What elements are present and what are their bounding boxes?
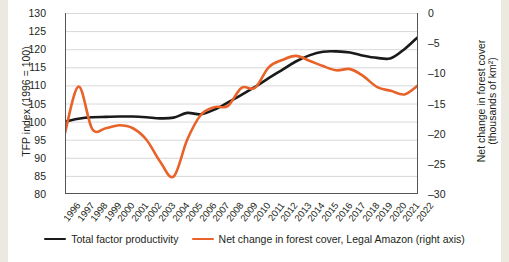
left-axis-tick-label: 125 [6,25,46,37]
plot-svg [65,13,418,194]
left-axis-tick-label: 130 [6,7,46,19]
left-axis-tick-label: 90 [6,152,46,164]
left-axis-tick-label: 80 [6,188,46,200]
left-axis-tick-label: 85 [6,170,46,182]
right-axis-title-line2: (thousands of km²) [486,57,498,145]
right-axis-tick-label: –30 [428,188,468,200]
right-axis-title: Net change in forest cover (thousands of… [476,26,498,176]
left-axis-tick-label: 115 [6,61,46,73]
right-axis-tick-label: 0 [428,7,468,19]
left-axis-tick-label: 110 [6,79,46,91]
left-axis-tick-label: 120 [6,43,46,55]
gridlines [65,14,418,195]
left-axis-tick-label: 105 [6,98,46,110]
left-axis-tick-label: 95 [6,134,46,146]
right-axis-tick-label: –5 [428,37,468,49]
plot-area [65,13,418,194]
right-axis-tick-label: –15 [428,98,468,110]
right-axis-tick-label: –10 [428,67,468,79]
right-axis-tick-label: –20 [428,128,468,140]
left-axis-tick-label: 100 [6,116,46,128]
right-axis-tick-label: –25 [428,158,468,170]
chart-figure: TFP index (1996 = 100) Net change in for… [8,0,501,262]
series-layer [65,37,418,177]
